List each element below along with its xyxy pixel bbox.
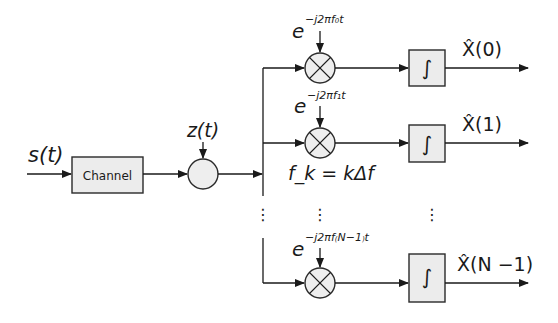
oscillator-1-exponent: −j2πf₁t — [307, 89, 346, 102]
input-signal: s(t) — [27, 143, 71, 174]
noise-label: z(t) — [186, 119, 219, 141]
input-label: s(t) — [28, 143, 64, 167]
integral-0-symbol: ∫ — [422, 56, 432, 80]
noise-adder: z(t) — [186, 119, 219, 189]
oscillator-0-exponent: −j2πf₀t — [305, 13, 344, 26]
integrator-ellipsis: ⋮ — [424, 205, 440, 224]
output-0-label: X̂(0) — [462, 38, 502, 60]
oscillator-0-base: e — [292, 19, 304, 43]
channel-block: Channel — [72, 157, 143, 193]
mixer-ellipsis: ⋮ — [312, 205, 328, 224]
output-1-label: X̂(1) — [462, 113, 502, 135]
integral-1-symbol: ∫ — [422, 132, 432, 156]
output-n-1-label: X̂(N −1) — [457, 253, 533, 275]
bus-ellipsis: ⋮ — [255, 205, 271, 224]
ofdm-correlator-diagram: s(t) Channel z(t) ⋮ ⋮ ⋮ e −j2πf₀t ∫ X̂(0… — [0, 0, 558, 323]
oscillator-n-1-exponent: −j2πf₍N−1₎t — [305, 231, 370, 244]
oscillator-1-base: e — [294, 94, 306, 118]
frequency-relation: f_k = kΔf — [288, 162, 377, 185]
oscillator-n-1-base: e — [292, 237, 304, 261]
integral-n-1-symbol: ∫ — [422, 265, 432, 289]
channel-label: Channel — [83, 169, 132, 183]
branch-0: e −j2πf₀t ∫ X̂(0) — [263, 13, 528, 86]
adder-circle — [188, 159, 218, 189]
branch-1: e −j2πf₁t f_k = kΔf ∫ X̂(1) — [263, 89, 528, 185]
branch-n-minus-1: e −j2πf₍N−1₎t ∫ X̂(N −1) — [263, 231, 533, 302]
